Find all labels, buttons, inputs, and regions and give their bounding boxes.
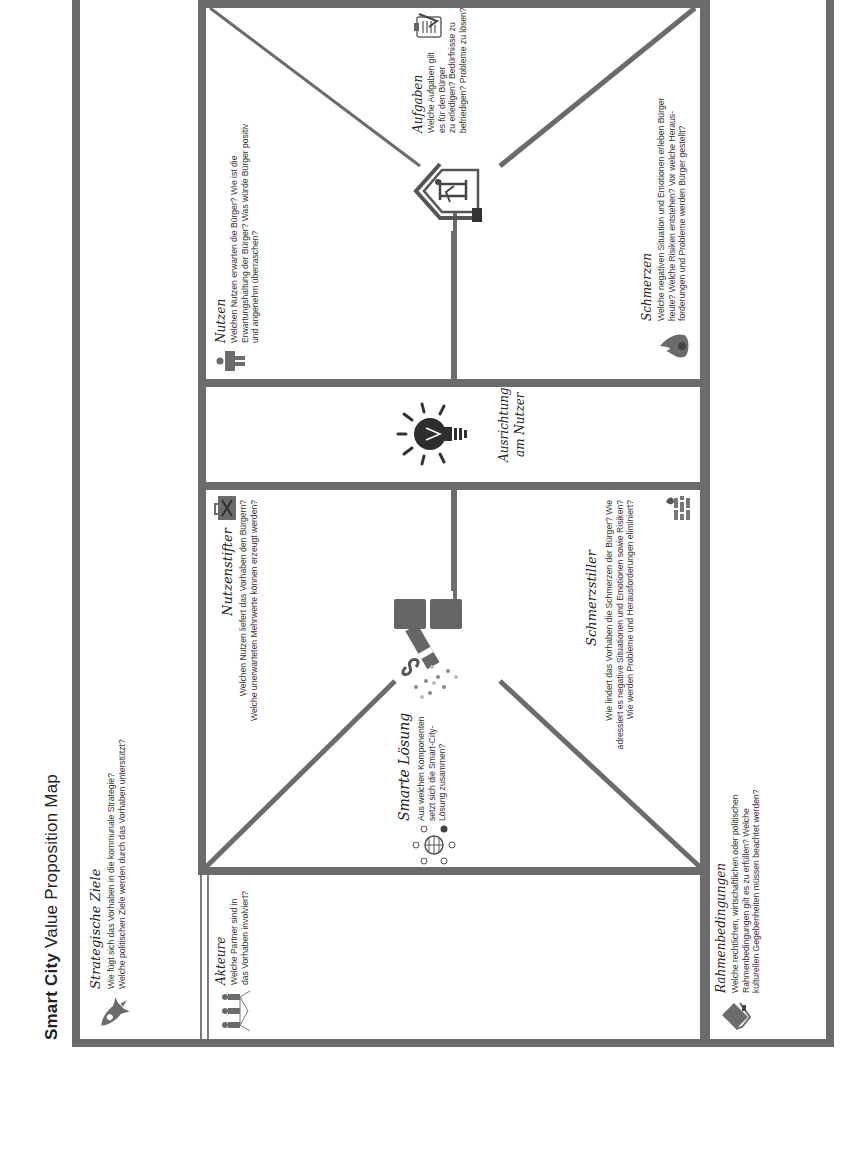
aufgaben-line-4: befriedigen? Probleme zu lösen?: [458, 7, 469, 133]
ausrichtung-line-2: am Nutzer: [512, 387, 528, 462]
smarte-loesung-line-1: Aus welchen Komponenten: [416, 716, 427, 821]
schmerzen-heading: Schmerzen: [640, 253, 654, 321]
nutzen-line-1: Welchen Nutzen erwarten die Bürger? Wie …: [229, 124, 240, 343]
flame-icon: [658, 331, 692, 361]
section-rahmenbedingungen: Rahmenbedingungen Welche rechtlichen, wi…: [710, 9, 826, 1039]
book-icon: [718, 999, 752, 1033]
house-citizen-icon: [410, 156, 490, 226]
strategische-ziele-heading: Strategische Ziele: [88, 869, 103, 989]
person-icon: [216, 349, 246, 373]
akteure-heading: Akteure: [214, 937, 228, 985]
rahmenbedingungen-line-1: Welche rechtlichen, wirtschaftlichen ode…: [730, 789, 741, 993]
aufgaben-heading: Aufgaben: [411, 75, 425, 133]
people-network-icon: [218, 989, 254, 1033]
nutzen-text: Welchen Nutzen erwarten die Bürger? Wie …: [229, 124, 261, 343]
firewall-icon: [664, 494, 694, 522]
rahmenbedingungen-text: Welche rechtlichen, wirtschaftlichen ode…: [730, 789, 762, 993]
nutzen-line-3: und angenehm überraschen?: [250, 124, 261, 343]
gift-icon: [386, 587, 496, 707]
akteure-text: Welche Partner sind in das Vorhaben invo…: [229, 891, 250, 985]
nutzen-line-2: Erwartungshaltung der Bürger? Was würde …: [240, 124, 251, 343]
strategische-ziele-text: Wie fügt sich das Vorhaben in die kommun…: [106, 739, 127, 989]
smarte-loesung-text: Aus welchen Komponenten setzt sich die S…: [416, 716, 448, 821]
akteure-line-1: Welche Partner sind in: [229, 891, 240, 985]
schmerzen-line-3: forderungen und Probleme werden Bürger g…: [677, 98, 688, 321]
strategische-ziele-line-1: Wie fügt sich das Vorhaben in die kommun…: [106, 739, 117, 989]
smarte-loesung-line-2: setzt sich die Smart-City-: [427, 716, 438, 821]
section-ausrichtung-am-nutzer: Ausrichtung am Nutzer: [206, 387, 700, 482]
nutzenstifter-heading: Nutzenstifter: [220, 528, 235, 616]
section-schmerzen: Schmerzen Welche negativen Situation und…: [600, 6, 700, 351]
schmerzen-line-1: Welche negativen Situation und Emotionen…: [656, 98, 667, 321]
section-strategische-ziele: Strategische Ziele Wie fügt sich das Vor…: [80, 9, 198, 1039]
section-nutzenstifter: Nutzenstifter Welchen Nutzen liefert das…: [210, 490, 300, 821]
rahmenbedingungen-heading: Rahmenbedingungen: [714, 863, 728, 993]
schmerzstiller-text: Wie lindert das Vorhaben die Schmerzen d…: [604, 500, 636, 749]
schmerzen-line-2: heute? Welche Risiken entstehen? Vor wel…: [667, 98, 678, 321]
ausrichtung-line-1: Ausrichtung: [496, 387, 512, 462]
smarte-loesung-heading: Smarte Lösung: [396, 713, 412, 821]
toolbox-icon: [214, 494, 238, 524]
value-proposition-map-canvas: Smart City Value Proposition Map: [0, 0, 865, 1151]
schmerzstiller-heading: Schmerzstiller: [584, 550, 599, 646]
nutzenstifter-text: Welchen Nutzen liefert das Vorhaben den …: [238, 500, 259, 721]
schmerzstiller-line-3: Wie werden Probleme und Herausforderunge…: [625, 500, 636, 749]
nutzenstifter-line-2: Welche unerwarteten Mehrwerte können erz…: [249, 500, 260, 721]
rahmenbedingungen-line-2: Rahmenbedingungen gilt es zu erfüllen? W…: [741, 789, 752, 993]
schmerzstiller-line-2: adressiert es negative Situationen und E…: [615, 500, 626, 749]
smarte-loesung-line-3: Lösung zusammen?: [437, 716, 448, 821]
akteure-line-2: das Vorhaben involviert?: [240, 891, 251, 985]
network-globe-icon: [414, 825, 454, 865]
rahmenbedingungen-line-3: kulturellen Gegebenheiten müssen beachte…: [751, 789, 762, 993]
nutzenstifter-line-1: Welchen Nutzen liefert das Vorhaben den …: [238, 500, 249, 721]
nutzen-heading: Nutzen: [214, 299, 228, 343]
section-schmerzstiller: Schmerzstiller Wie lindert das Vorhaben …: [580, 490, 700, 851]
clipboard-check-icon: [413, 13, 443, 39]
rocket-icon: [94, 993, 134, 1033]
schmerzen-text: Welche negativen Situation und Emotionen…: [656, 98, 688, 321]
schmerzstiller-line-1: Wie lindert das Vorhaben die Schmerzen d…: [604, 500, 615, 749]
strategische-ziele-line-2: Welche politischen Ziele werden durch da…: [117, 739, 128, 989]
section-akteure: Akteure Welche Partner sind in das Vorha…: [210, 875, 700, 1039]
lightbulb-icon: [396, 402, 476, 466]
section-aufgaben: Aufgaben Welche Aufgaben gilt es für den…: [395, 1, 505, 151]
section-smarte-loesung: Smarte Lösung Aus welchen Komponenten se…: [390, 627, 510, 867]
ausrichtung-heading: Ausrichtung am Nutzer: [496, 387, 528, 462]
aufgaben-line-3: zu erledigen? Bedürfnisse zu: [447, 7, 458, 133]
section-nutzen: Nutzen Welchen Nutzen erwarten die Bürge…: [210, 79, 330, 379]
